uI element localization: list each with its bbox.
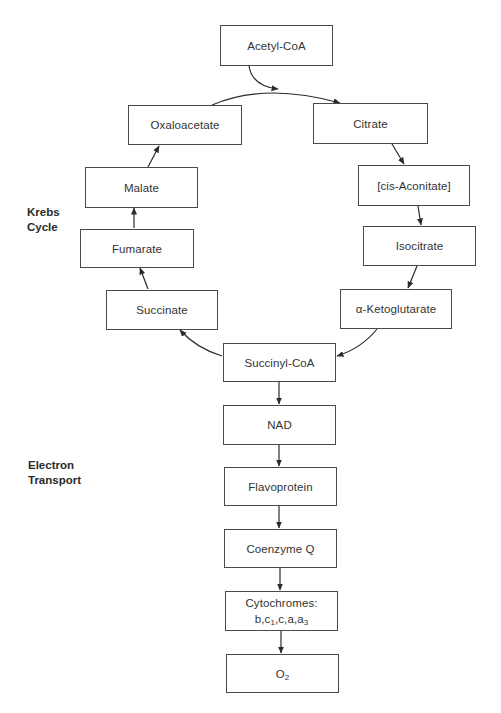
node-cytochromes: Cytochromes: b,c1,c,a,a3 bbox=[225, 591, 338, 631]
node-citrate: Citrate bbox=[313, 103, 428, 144]
node-succinate: Succinate bbox=[106, 290, 218, 330]
node-succinyl-coa: Succinyl-CoA bbox=[223, 343, 336, 382]
arrow-isocitrate-to-ketoglutarate bbox=[408, 266, 417, 288]
arrow-succinyl-coa-to-succinate bbox=[180, 330, 222, 356]
node-acetyl-coa: Acetyl-CoA bbox=[220, 25, 333, 66]
electron-transport-label: Electron Transport bbox=[28, 458, 81, 488]
node-isocitrate: Isocitrate bbox=[363, 226, 476, 266]
node-coenzyme-q: Coenzyme Q bbox=[224, 529, 337, 568]
node-flavoprotein: Flavoprotein bbox=[224, 467, 337, 506]
arrow-ketoglutarate-to-succinyl-coa bbox=[337, 329, 377, 356]
krebs-electron-transport-diagram: Krebs Cycle Electron Transport Acetyl-Co… bbox=[0, 0, 501, 713]
arrow-acetyl-coa-to-cycle bbox=[249, 66, 278, 89]
arrow-malate-to-oxaloacetate bbox=[148, 146, 159, 167]
node-malate: Malate bbox=[85, 167, 198, 208]
node-cis-aconitate: [cis-Aconitate] bbox=[358, 165, 470, 206]
node-alpha-ketoglutarate: α-Ketoglutarate bbox=[340, 289, 452, 329]
node-o2: O2 bbox=[226, 654, 339, 693]
o2-label: O2 bbox=[276, 666, 290, 682]
node-nad: NAD bbox=[223, 405, 336, 445]
cytochromes-list: b,c1,c,a,a3 bbox=[255, 611, 309, 627]
arrow-citrate-to-cis-aconitate bbox=[392, 144, 404, 164]
node-oxaloacetate: Oxaloacetate bbox=[128, 105, 242, 145]
arrow-cis-aconitate-to-isocitrate bbox=[418, 206, 421, 225]
node-fumarate: Fumarate bbox=[80, 229, 194, 268]
krebs-cycle-label: Krebs Cycle bbox=[27, 205, 60, 235]
arrow-succinate-to-fumarate bbox=[140, 268, 148, 289]
